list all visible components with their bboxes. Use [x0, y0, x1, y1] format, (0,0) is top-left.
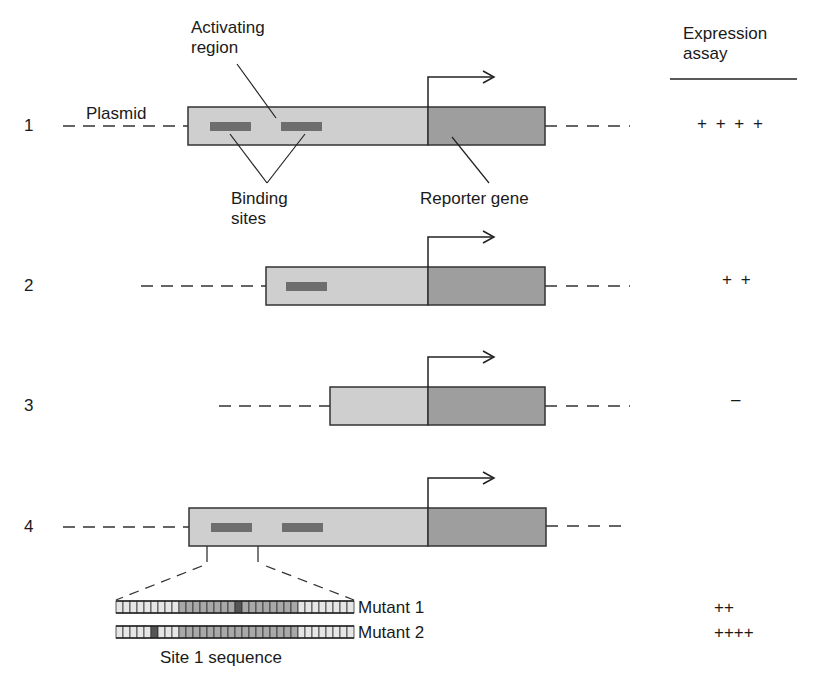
reporter-gene — [428, 107, 545, 145]
site1-sequence-label: Site 1 sequence — [160, 648, 282, 668]
expression-assay-header-line2: assay — [683, 44, 767, 64]
binding-site — [286, 282, 327, 291]
assay-result: + + — [722, 270, 753, 290]
expression-assay-header: Expression assay — [683, 24, 767, 64]
construct-number: 2 — [24, 276, 33, 296]
activating-region-label: Activating region — [191, 18, 265, 58]
reporter-gene — [428, 387, 545, 425]
construct-number: 3 — [24, 396, 33, 416]
binding-site — [282, 523, 323, 532]
mutant-2-sequence — [116, 626, 354, 638]
reporter-gene — [428, 267, 545, 305]
plasmid-label: Plasmid — [86, 104, 146, 124]
promoter-arrow-icon — [428, 478, 494, 508]
mutant-2-label: Mutant 2 — [358, 623, 424, 643]
expression-assay-header-line1: Expression — [683, 24, 767, 44]
promoter-arrow-icon — [428, 77, 494, 107]
construct-3 — [219, 357, 630, 425]
binding-site — [281, 122, 322, 131]
promoter-arrow-icon — [428, 357, 494, 387]
mutant-2-assay: ++++ — [714, 623, 754, 643]
activating-region-label-line2: region — [191, 38, 265, 58]
activating-region — [330, 387, 428, 425]
construct-4 — [63, 478, 630, 600]
binding-site — [211, 523, 252, 532]
binding-sites-label-line1: Binding — [231, 189, 288, 209]
activating-region-label-line1: Activating — [191, 18, 265, 38]
mutant-1-sequence — [116, 601, 354, 613]
construct-number: 4 — [24, 517, 33, 537]
mutant-1-assay: ++ — [714, 598, 734, 618]
reporter-gene — [428, 508, 546, 546]
assay-result: – — [731, 390, 742, 410]
binding-sites-label-line2: sites — [231, 209, 288, 229]
binding-sites-label: Binding sites — [231, 189, 288, 229]
construct-1 — [63, 64, 630, 183]
promoter-arrow-icon — [428, 237, 494, 267]
binding-site — [210, 122, 251, 131]
construct-2 — [141, 237, 630, 305]
mutant-1-label: Mutant 1 — [358, 598, 424, 618]
assay-result: + + + + — [697, 114, 765, 134]
construct-number: 1 — [24, 116, 33, 136]
reporter-gene-label: Reporter gene — [420, 189, 529, 209]
